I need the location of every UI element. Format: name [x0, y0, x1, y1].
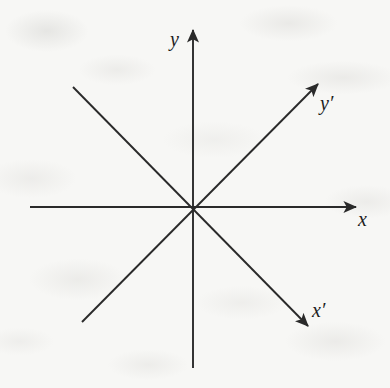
axes-drawing	[0, 0, 390, 388]
y-prime-axis-label: y′	[320, 93, 333, 113]
x-prime-axis-label: x′	[312, 300, 325, 320]
y-prime-axis-line	[82, 84, 318, 322]
x-axis-label-y: y	[170, 29, 179, 49]
x-axis-label-x: x	[358, 209, 367, 229]
coordinate-axes-figure: y x y′ x′	[0, 0, 390, 388]
